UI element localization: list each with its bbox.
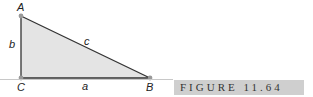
vertex-label-b: B [146, 81, 153, 93]
triangle-shape [21, 16, 150, 78]
vertex-label-a: A [17, 1, 24, 13]
side-label-b: b [9, 38, 15, 50]
side-label-c: c [84, 35, 90, 47]
side-label-a: a [82, 80, 88, 92]
vertex-a-dot [19, 14, 24, 19]
figure-caption: FIGURE 11.64 [174, 80, 304, 95]
vertex-label-c: C [17, 81, 25, 93]
